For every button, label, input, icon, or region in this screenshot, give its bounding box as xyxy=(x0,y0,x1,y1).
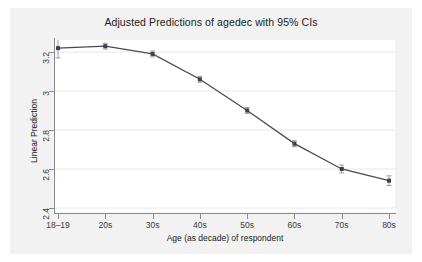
x-tick-label: 18–19 xyxy=(46,220,70,230)
x-tick-mark xyxy=(294,214,295,219)
data-point-marker xyxy=(56,46,60,50)
x-tick-label: 80s xyxy=(382,220,396,230)
data-point-marker xyxy=(292,142,296,146)
x-axis-title: Age (as decade) of respondent xyxy=(55,233,395,243)
chart-canvas xyxy=(55,40,395,212)
data-point-group xyxy=(197,76,202,82)
x-tick-label: 60s xyxy=(288,220,302,230)
x-tick-mark xyxy=(105,214,106,219)
x-tick-mark xyxy=(153,214,154,219)
data-point-marker xyxy=(198,77,202,81)
data-point-group xyxy=(339,165,344,173)
data-point-marker xyxy=(245,109,249,113)
x-tick-label: 50s xyxy=(240,220,254,230)
x-tick-label: 70s xyxy=(335,220,349,230)
data-point-marker xyxy=(151,52,155,56)
x-tick-mark xyxy=(342,214,343,219)
x-tick-label: 20s xyxy=(98,220,112,230)
plot-area xyxy=(55,40,395,212)
data-point-group xyxy=(245,108,250,114)
y-tick-label: 2.6 xyxy=(41,169,51,181)
y-tick-label: 3 xyxy=(41,91,51,96)
figure-root: Adjusted Predictions of agedec with 95% … xyxy=(0,0,422,262)
chart-title: Adjusted Predictions of agedec with 95% … xyxy=(10,16,412,28)
x-tick-mark xyxy=(389,214,390,219)
y-tick-label: 2.4 xyxy=(41,208,51,220)
data-point-marker xyxy=(340,167,344,171)
x-tick-mark xyxy=(58,214,59,219)
x-tick-mark xyxy=(247,214,248,219)
x-tick-label: 30s xyxy=(146,220,160,230)
data-point-marker xyxy=(387,179,391,183)
data-point-group xyxy=(387,176,392,186)
data-point-group xyxy=(292,141,297,147)
y-tick-label: 2.8 xyxy=(41,130,51,142)
x-tick-mark xyxy=(200,214,201,219)
y-tick-label: 3.2 xyxy=(41,52,51,64)
x-tick-label: 40s xyxy=(193,220,207,230)
y-tick-label-wrap: 3.2 xyxy=(26,52,46,53)
y-axis-title: Linear Prediction xyxy=(29,76,39,186)
data-point-marker xyxy=(103,44,107,48)
data-point-group xyxy=(103,43,108,49)
data-line xyxy=(58,46,389,181)
y-axis-line xyxy=(54,38,55,214)
data-point-group xyxy=(56,40,61,58)
y-tick-label-wrap: 2.4 xyxy=(26,208,46,209)
